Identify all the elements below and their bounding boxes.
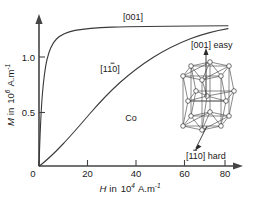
y-axis-in: in — [5, 108, 16, 115]
y-axis-arrowhead — [35, 14, 42, 24]
inset-label-hard: [110] hard — [186, 150, 226, 161]
x-axis-symbol: H — [99, 183, 106, 194]
easy-axis-arrow — [204, 48, 209, 97]
x-axis-in: in — [109, 183, 116, 194]
y-tick-label-1: 1.0 — [22, 52, 35, 63]
x-axis-unit: A.m — [138, 183, 155, 194]
x-axis-arrowhead — [233, 162, 243, 169]
y-axis — [35, 14, 42, 166]
svg-text:Min106A.m-1: Min106A.m-1 — [4, 64, 16, 127]
x-tick-label-60: 60 — [179, 168, 190, 179]
x-axis-mantissa: 10 — [121, 183, 132, 194]
curve-label-hard-text: [110] — [100, 64, 119, 74]
y-axis-mantissa: 10 — [5, 93, 16, 104]
inset-label-easy: [001] easy — [191, 40, 233, 50]
svg-text:Hin104A.m-1: Hin104A.m-1 — [99, 182, 161, 194]
figure-magnetization-curve: 1.0 0.5 0 20 40 60 80 Hin104A.m-1 Min106… — [0, 0, 258, 198]
y-axis-title: Min106A.m-1 — [4, 64, 16, 127]
y-tick-label-0: 0.5 — [22, 107, 35, 118]
inset-label-hard-text: [110] hard — [186, 151, 226, 161]
curve-label-hard: [110] — [100, 63, 119, 74]
x-tick-label-40: 40 — [131, 168, 142, 179]
y-axis-exponent: 6 — [4, 89, 11, 93]
y-axis-unit: A.m — [5, 70, 16, 87]
x-axis-title: Hin104A.m-1 — [99, 182, 161, 194]
y-axis-unit-exponent: -1 — [4, 64, 11, 70]
y-axis-symbol: M — [5, 118, 16, 126]
plot-canvas: 1.0 0.5 0 20 40 60 80 Hin104A.m-1 Min106… — [0, 0, 258, 198]
x-tick-label-20: 20 — [82, 168, 93, 179]
curve-label-easy: [001] — [123, 12, 143, 22]
x-axis-unit-exponent: -1 — [155, 182, 161, 189]
x-tick-label-80: 80 — [220, 168, 231, 179]
sample-label-co: Co — [125, 113, 137, 123]
origin-label: 0 — [30, 168, 35, 179]
inset-hcp-lattice — [181, 48, 237, 151]
x-axis-exponent: 4 — [131, 182, 135, 189]
